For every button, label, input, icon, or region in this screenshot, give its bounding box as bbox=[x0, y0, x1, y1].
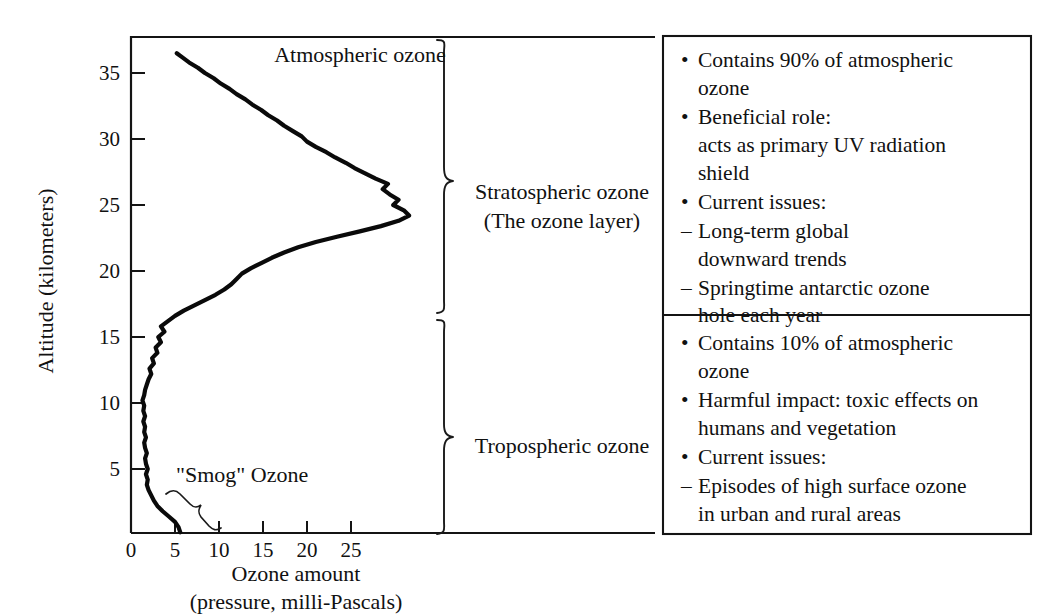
panel-bullet-text: Episodes of high surface ozonein urban a… bbox=[698, 473, 1026, 529]
y-tick-label-35: 35 bbox=[58, 63, 120, 84]
bullet-marker-icon: – bbox=[681, 473, 698, 501]
panel-bullet-text: Current issues: bbox=[698, 444, 1026, 472]
panel-bullet-text: Current issues: bbox=[698, 189, 1026, 217]
troposphere-region-label: Tropospheric ozone bbox=[462, 432, 662, 461]
bullet-marker-icon: • bbox=[681, 330, 698, 358]
panel-bullet-item: •Beneficial role:acts as primary UV radi… bbox=[681, 104, 1026, 188]
x-tick-label-20: 20 bbox=[287, 540, 327, 561]
x-axis-title-line2: (pressure, milli-Pascals) bbox=[131, 588, 461, 615]
panel-bullet-text: Harmful impact: toxic effects onhumans a… bbox=[698, 387, 1026, 443]
bullet-marker-icon: • bbox=[681, 444, 698, 472]
x-tick-label-25: 25 bbox=[331, 540, 371, 561]
panel-bullet-item: •Current issues: bbox=[681, 189, 1026, 217]
panel-bullet-continuation: acts as primary UV radiation bbox=[698, 132, 1026, 160]
x-tick-label-0: 0 bbox=[111, 540, 151, 561]
x-tick-label-15: 15 bbox=[243, 540, 283, 561]
y-tick-label-30: 30 bbox=[58, 129, 120, 150]
panel-bullet-continuation: ozone bbox=[698, 358, 1026, 386]
bullet-marker-icon: – bbox=[681, 218, 698, 246]
y-axis-title: Altitude (kilometers) bbox=[33, 171, 59, 391]
panel-bullet-item: •Current issues: bbox=[681, 444, 1026, 472]
panel-bullet-item: –Episodes of high surface ozonein urban … bbox=[681, 473, 1026, 529]
bullet-marker-icon: • bbox=[681, 104, 698, 132]
smog-annotation-label: "Smog" Ozone bbox=[176, 462, 308, 488]
stratospheric-panel: •Contains 90% of atmosphericozone•Benefi… bbox=[681, 47, 1026, 331]
bullet-marker-icon: • bbox=[681, 387, 698, 415]
stratosphere-label-line2: (The ozone layer) bbox=[462, 207, 662, 236]
panel-bullet-continuation: downward trends bbox=[698, 246, 1026, 274]
x-axis-title: Ozone amount (pressure, milli-Pascals) bbox=[131, 560, 461, 615]
troposphere-brace bbox=[437, 320, 453, 534]
y-tick-label-15: 15 bbox=[58, 327, 120, 348]
y-tick-label-10: 10 bbox=[58, 393, 120, 414]
stratosphere-label-line1: Stratospheric ozone bbox=[462, 178, 662, 207]
panel-bullet-continuation: shield bbox=[698, 160, 1026, 188]
panel-bullet-text: Contains 10% of atmosphericozone bbox=[698, 330, 1026, 386]
stratosphere-region-label: Stratospheric ozone (The ozone layer) bbox=[462, 178, 662, 235]
y-tick-label-20: 20 bbox=[58, 261, 120, 282]
panel-bullet-item: •Harmful impact: toxic effects onhumans … bbox=[681, 387, 1026, 443]
bullet-marker-icon: – bbox=[681, 275, 698, 303]
ozone-figure: 35 30 25 20 15 10 5 0 5 10 15 20 25 Alti… bbox=[0, 0, 1045, 615]
x-tick-label-10: 10 bbox=[199, 540, 239, 561]
panel-bullet-text: Contains 90% of atmosphericozone bbox=[698, 47, 1026, 103]
panel-bullet-item: •Contains 10% of atmosphericozone bbox=[681, 330, 1026, 386]
x-axis-title-line1: Ozone amount bbox=[131, 560, 461, 588]
ozone-profile-curve bbox=[142, 53, 409, 532]
y-tick-label-5: 5 bbox=[58, 459, 120, 480]
panel-bullet-continuation: hole each year bbox=[698, 302, 1026, 330]
x-tick-marks bbox=[131, 521, 351, 533]
panel-bullet-text: Long-term globaldownward trends bbox=[698, 218, 1026, 274]
x-tick-label-5: 5 bbox=[155, 540, 195, 561]
panel-bullet-continuation: in urban and rural areas bbox=[698, 501, 1026, 529]
panel-bullet-item: –Springtime antarctic ozonehole each yea… bbox=[681, 275, 1026, 331]
panel-bullet-item: –Long-term globaldownward trends bbox=[681, 218, 1026, 274]
bullet-marker-icon: • bbox=[681, 47, 698, 75]
bullet-marker-icon: • bbox=[681, 189, 698, 217]
tropospheric-panel: •Contains 10% of atmosphericozone•Harmfu… bbox=[681, 330, 1026, 530]
stratosphere-brace bbox=[437, 40, 453, 313]
panel-bullet-text: Beneficial role:acts as primary UV radia… bbox=[698, 104, 1026, 188]
panel-bullet-continuation: ozone bbox=[698, 75, 1026, 103]
panel-bullet-text: Springtime antarctic ozonehole each year bbox=[698, 275, 1026, 331]
panel-bullet-continuation: humans and vegetation bbox=[698, 415, 1026, 443]
panel-bullet-item: •Contains 90% of atmosphericozone bbox=[681, 47, 1026, 103]
plot-title: Atmospheric ozone bbox=[240, 42, 480, 68]
y-tick-label-25: 25 bbox=[58, 195, 120, 216]
